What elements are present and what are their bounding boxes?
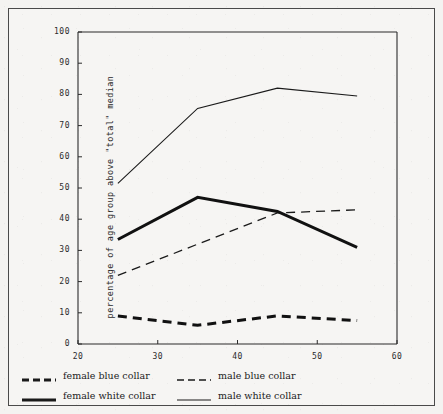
y-tick-label: 20: [44, 277, 70, 286]
x-tick-label: 20: [65, 352, 91, 361]
legend-label: male blue collar: [218, 370, 296, 381]
chart-figure: percentage of age group above "total" me…: [0, 0, 443, 414]
legend-entry-female-white-collar[interactable]: female white collar: [22, 386, 156, 404]
legend-swatch-thin-solid: [177, 390, 211, 400]
series-line-male-white-collar: [118, 88, 357, 183]
y-axis-label: percentage of age group above "total" me…: [105, 67, 115, 327]
legend-entry-male-blue-collar[interactable]: male blue collar: [177, 366, 296, 384]
y-tick-label: 10: [44, 308, 70, 317]
legend-label: male white collar: [218, 390, 301, 401]
y-tick-label: 100: [44, 27, 70, 36]
legend-swatch-thick-solid: [22, 390, 56, 400]
x-tick-label: 60: [384, 352, 410, 361]
legend-swatch-thick-dashed: [22, 370, 56, 380]
legend-row: female blue collarmale blue collar: [22, 366, 422, 384]
y-tick-label: 80: [44, 89, 70, 98]
y-tick-label: 70: [44, 121, 70, 130]
legend-entry-female-blue-collar[interactable]: female blue collar: [22, 366, 150, 384]
plot-area: percentage of age group above "total" me…: [78, 32, 397, 344]
legend-label: female blue collar: [63, 370, 150, 381]
y-tick-label: 0: [44, 339, 70, 348]
y-tick-label: 40: [44, 214, 70, 223]
y-tick-label: 90: [44, 58, 70, 67]
legend-label: female white collar: [63, 390, 156, 401]
legend-swatch-thin-dashed: [177, 370, 211, 380]
chart-legend: female blue collarmale blue collarfemale…: [22, 366, 422, 406]
y-tick-label: 50: [44, 183, 70, 192]
legend-row: female white collarmale white collar: [22, 386, 422, 404]
legend-entry-male-white-collar[interactable]: male white collar: [177, 386, 301, 404]
x-tick-label: 40: [225, 352, 251, 361]
y-tick-label: 60: [44, 152, 70, 161]
series-lines: [78, 32, 397, 344]
x-tick-label: 50: [304, 352, 330, 361]
y-tick-label: 30: [44, 245, 70, 254]
x-tick-label: 30: [145, 352, 171, 361]
series-line-female-white-collar: [118, 197, 357, 247]
series-line-female-blue-collar: [118, 316, 357, 325]
